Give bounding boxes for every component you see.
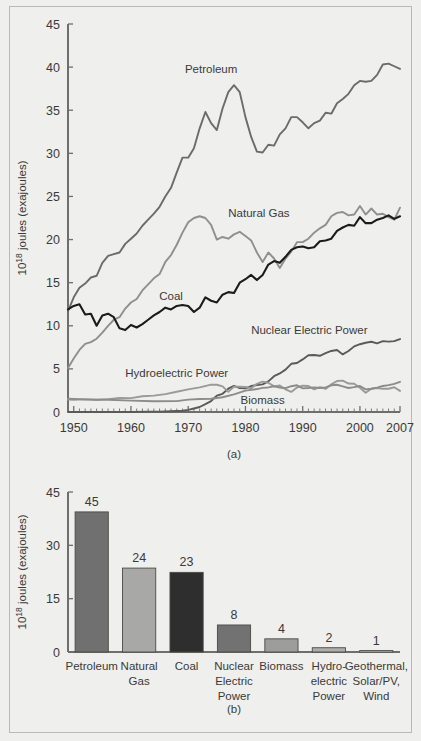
x-tick-group: 1950196019701980199020002007 — [60, 406, 414, 435]
category-label-line: Electric — [215, 675, 253, 687]
series-label-biomass: Biomass — [241, 394, 285, 406]
panel-b-bar-chart: 01530451018 joules (exajoules)45Petroleu… — [0, 470, 421, 736]
bar-petroleum — [75, 512, 108, 652]
series-line-natural-gas — [68, 206, 400, 368]
bar-value-label-coal: 23 — [180, 555, 194, 569]
bar-biomass — [265, 639, 298, 652]
category-label-line: Coal — [175, 660, 199, 672]
y-axis-title-text: 1018 joules (exajoules) — [14, 514, 28, 629]
series-label-coal: Coal — [159, 290, 183, 302]
y-tick-label: 25 — [46, 190, 60, 204]
bar-chart-svg: 01530451018 joules (exajoules)45Petroleu… — [0, 470, 421, 736]
y-tick-group: 0153045 — [46, 486, 73, 660]
category-label-line: Gas — [129, 675, 150, 687]
category-label-hydro-electric-power: Hydro-electricPower — [311, 660, 348, 702]
category-label-natural-gas: NaturalGas — [121, 660, 158, 687]
series-line-hydroelectric-power — [68, 381, 400, 400]
category-label-line: Power — [218, 690, 251, 702]
y-tick-label: 5 — [53, 362, 60, 376]
y-tick-label: 40 — [46, 61, 60, 75]
y-axis-title-exponent: 18 — [14, 607, 24, 617]
y-tick-label: 30 — [46, 539, 60, 553]
bar-coal — [170, 572, 203, 652]
bar-value-label-geothermal-solar-pv-wind: 1 — [373, 634, 380, 648]
category-label-line: Power — [313, 690, 346, 702]
category-label-nuclear-electric-power: NuclearElectricPower — [214, 660, 254, 702]
y-axis-title-text: 1018 joules (exajoules) — [14, 160, 28, 275]
category-label-petroleum: Petroleum — [66, 660, 118, 672]
panel-a-line-chart: 0510152025303540451950196019701980199020… — [0, 8, 421, 478]
category-label-coal: Coal — [175, 660, 199, 672]
series-label-hydroelectric-power: Hydroelectric Power — [125, 367, 228, 379]
category-label-line: Solar/PV, — [353, 675, 401, 687]
bar-value-label-nuclear-electric-power: 8 — [231, 608, 238, 622]
category-label-line: Natural — [121, 660, 158, 672]
line-series-group: PetroleumNatural GasCoalNuclear Electric… — [68, 63, 400, 412]
category-label-line: Hydro- — [312, 660, 347, 672]
y-tick-label: 0 — [53, 406, 60, 420]
x-tick-label: 1990 — [289, 421, 317, 435]
y-axis-title-rest: joules (exajoules) — [16, 160, 28, 253]
x-tick-label: 1960 — [117, 421, 145, 435]
y-axis-title: 1018 joules (exajoules) — [14, 160, 28, 275]
bar-hydro-electric-power — [312, 648, 345, 652]
y-axis-title-exponent: 18 — [14, 253, 24, 263]
category-label-geothermal-solar-pv-wind: Geothermal,Solar/PV,Wind — [345, 660, 408, 702]
y-tick-label: 45 — [46, 486, 60, 500]
y-tick-label: 30 — [46, 147, 60, 161]
y-tick-group: 051015202530354045 — [46, 18, 73, 420]
x-tick-label: 1950 — [60, 421, 88, 435]
y-tick-label: 35 — [46, 104, 60, 118]
category-label-line: Nuclear — [214, 660, 254, 672]
category-label-line: electric — [311, 675, 348, 687]
y-axis-title-base: 10 — [16, 263, 28, 276]
bar-value-label-biomass: 4 — [278, 622, 285, 636]
y-axis-title: 1018 joules (exajoules) — [14, 514, 28, 629]
line-chart-svg: 0510152025303540451950196019701980199020… — [0, 8, 421, 478]
panel-a-caption: (a) — [227, 448, 241, 460]
y-tick-label: 10 — [46, 319, 60, 333]
y-tick-label: 15 — [46, 276, 60, 290]
series-label-petroleum: Petroleum — [185, 63, 237, 75]
y-tick-label: 15 — [46, 592, 60, 606]
bar-natural-gas — [123, 568, 156, 652]
y-axis-title-rest: joules (exajoules) — [16, 514, 28, 607]
bar-geothermal-solar-pv-wind — [360, 651, 393, 653]
bar-value-label-hydro-electric-power: 2 — [325, 631, 332, 645]
panel-b-caption: (b) — [227, 703, 241, 715]
series-label-natural-gas: Natural Gas — [228, 207, 290, 219]
category-label-line: Biomass — [259, 660, 303, 672]
category-label-biomass: Biomass — [259, 660, 303, 672]
x-tick-label: 2007 — [386, 421, 414, 435]
bar-value-label-petroleum: 45 — [85, 495, 99, 509]
x-tick-label: 1980 — [232, 421, 260, 435]
series-line-petroleum — [68, 64, 400, 311]
bar-value-label-natural-gas: 24 — [132, 551, 146, 565]
category-label-line: Geothermal, — [345, 660, 408, 672]
y-tick-label: 0 — [53, 646, 60, 660]
y-tick-label: 20 — [46, 233, 60, 247]
x-tick-label: 1970 — [174, 421, 202, 435]
bar-nuclear-electric-power — [217, 625, 250, 652]
y-axis-title-base: 10 — [16, 617, 28, 630]
series-line-coal — [68, 215, 400, 330]
category-label-line: Wind — [363, 690, 389, 702]
series-label-nuclear-electric-power: Nuclear Electric Power — [251, 324, 367, 336]
bar-group: 45Petroleum24NaturalGas23Coal8NuclearEle… — [66, 495, 408, 702]
figure-container: 0510152025303540451950196019701980199020… — [0, 0, 421, 741]
y-tick-label: 45 — [46, 18, 60, 32]
x-tick-label: 2000 — [346, 421, 374, 435]
category-label-line: Petroleum — [66, 660, 118, 672]
